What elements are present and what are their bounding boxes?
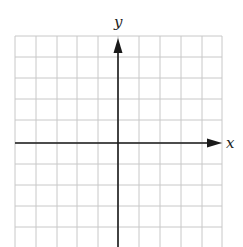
y-axis-arrow-icon: [114, 38, 123, 53]
x-axis-label: x: [226, 134, 235, 152]
y-axis-label: y: [113, 13, 123, 31]
x-axis-arrow-icon: [207, 139, 222, 148]
coordinate-plane: x y: [0, 0, 243, 247]
